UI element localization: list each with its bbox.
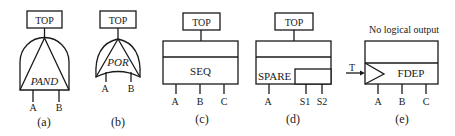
spare-input-a: A	[264, 96, 272, 107]
seq-input-a: A	[171, 96, 179, 107]
pand-gate-label: PAND	[30, 75, 58, 87]
gate-fdep: No logical output T FDEP A B C (e)	[346, 24, 439, 126]
caption-d: (d)	[286, 112, 300, 126]
gate-seq: TOP SEQ A B C (c)	[163, 13, 238, 126]
seq-gate-box	[163, 41, 238, 84]
pand-input-a: A	[29, 102, 37, 113]
fdep-trigger-arrow-icon	[360, 71, 365, 76]
fdep-gate-label: FDEP	[398, 67, 425, 79]
dft-gates-diagram: TOP PAND A B (a) TOP POR A B (b) TOP SEQ	[0, 0, 455, 136]
por-gate-label: POR	[106, 56, 129, 68]
caption-c: (c)	[195, 112, 208, 126]
spare-top-label: TOP	[285, 17, 304, 28]
caption-b: (b)	[111, 115, 125, 129]
seq-input-b: B	[197, 96, 204, 107]
fdep-input-a: A	[374, 96, 382, 107]
fdep-input-b: B	[399, 96, 406, 107]
spare-inner-box	[295, 69, 331, 84]
seq-top-label: TOP	[192, 17, 211, 28]
spare-input-s2: S2	[317, 96, 328, 107]
gate-spare: TOP SPARE A S1 S2 (d)	[256, 13, 331, 126]
fdep-input-c: C	[423, 96, 430, 107]
por-input-a: A	[101, 83, 109, 94]
spare-input-s1: S1	[300, 96, 311, 107]
fdep-top-label: No logical output	[369, 24, 439, 35]
gate-pand: TOP PAND A B (a)	[20, 11, 69, 129]
por-top-label: TOP	[109, 15, 128, 26]
caption-a: (a)	[37, 115, 50, 129]
spare-gate-label: SPARE	[258, 70, 292, 82]
caption-e: (e)	[395, 112, 408, 126]
gate-por: TOP POR A B (b)	[96, 11, 140, 129]
pand-input-b: B	[56, 102, 63, 113]
por-input-b: B	[128, 83, 135, 94]
seq-gate-label: SEQ	[190, 65, 211, 77]
seq-input-c: C	[221, 96, 228, 107]
pand-top-label: TOP	[35, 15, 54, 26]
fdep-trigger-label: T	[349, 62, 355, 73]
